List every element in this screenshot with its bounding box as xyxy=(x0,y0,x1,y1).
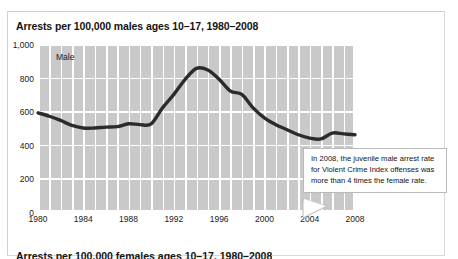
x-tick-label-1996: 1996 xyxy=(210,214,229,224)
x-tick-label-1980: 1980 xyxy=(29,214,48,224)
y-axis: 1,000 800 600 400 200 0 xyxy=(0,44,34,212)
y-tick-label-600: 600 xyxy=(2,107,34,117)
page-title: Arrests per 100,000 males ages 10–17, 19… xyxy=(16,20,258,32)
series-label-male: Male xyxy=(56,52,74,62)
x-tick-label-1992: 1992 xyxy=(164,214,183,224)
x-tick-label-1988: 1988 xyxy=(119,214,138,224)
callout-text: In 2008, the juvenile male arrest rate f… xyxy=(303,148,447,193)
figure-page: Arrests per 100,000 males ages 10–17, 19… xyxy=(0,0,458,259)
x-tick-label-1984: 1984 xyxy=(74,214,93,224)
callout-annotation: In 2008, the juvenile male arrest rate f… xyxy=(303,148,447,193)
y-tick-label-1000: 1,000 xyxy=(2,40,34,50)
y-tick-label-400: 400 xyxy=(2,141,34,151)
next-section-title: Arrests per 100,000 females ages 10–17, … xyxy=(16,250,272,259)
y-tick-label-800: 800 xyxy=(2,74,34,84)
x-tick-label-2000: 2000 xyxy=(255,214,274,224)
y-tick-label-200: 200 xyxy=(2,174,34,184)
